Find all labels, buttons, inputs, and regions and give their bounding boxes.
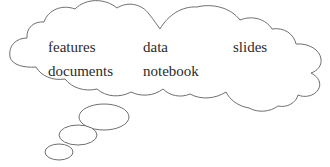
keyword-layer: features data slides documents notebook <box>0 0 330 167</box>
keyword-notebook: notebook <box>143 64 199 79</box>
keyword-features: features <box>48 40 95 55</box>
keyword-documents: documents <box>48 64 113 79</box>
thought-bubble-diagram: features data slides documents notebook <box>0 0 330 167</box>
keyword-data: data <box>143 40 168 55</box>
keyword-slides: slides <box>233 40 267 55</box>
